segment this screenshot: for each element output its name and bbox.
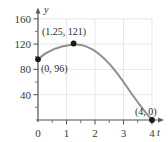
y-tick-label-80: 80 <box>20 63 32 75</box>
annotation-start: (0, 96) <box>41 63 68 75</box>
x-axis-arrow <box>158 118 164 123</box>
data-point-end <box>149 117 155 123</box>
x-tick-label-2: 2 <box>92 127 98 139</box>
data-point-vertex <box>71 41 77 47</box>
y-axis <box>36 8 41 123</box>
x-tick-label-0: 0 <box>35 127 41 139</box>
chart-canvas: 160 120 80 40 0 1 2 3 4 y t (1.25, 121) … <box>0 0 168 142</box>
x-tick-label-1: 1 <box>64 127 70 139</box>
data-point-start <box>35 56 41 62</box>
x-axis-label: t <box>157 127 160 138</box>
x-tick-label-4: 4 <box>149 127 155 139</box>
y-axis-arrow <box>36 8 41 14</box>
x-axis <box>36 118 164 123</box>
parabola-figure: 160 120 80 40 0 1 2 3 4 y t (1.25, 121) … <box>0 0 168 142</box>
annotation-end: (4, 0) <box>135 106 157 118</box>
y-tick-label-160: 160 <box>15 13 32 25</box>
y-tick-label-120: 120 <box>15 38 32 50</box>
y-tick-label-40: 40 <box>20 89 32 101</box>
annotation-vertex: (1.25, 121) <box>42 26 86 38</box>
y-axis-label: y <box>43 4 49 15</box>
x-tick-label-3: 3 <box>121 127 127 139</box>
